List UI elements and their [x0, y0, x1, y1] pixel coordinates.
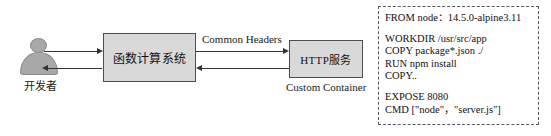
dockerfile-panel: FROM node：14.5.0-alpine3.11 WORKDIR /usr…	[378, 6, 539, 125]
person-icon-body	[20, 52, 58, 75]
dockerfile-line: CMD ["node"，"server.js"]	[385, 104, 538, 117]
actor-developer-label: 开发者	[0, 80, 80, 93]
diagram-canvas: 开发者 函数计算系统 Common Headers HTTP服务 Custom …	[0, 0, 551, 136]
node-http-service-caption: Custom Container	[286, 81, 366, 93]
actor-developer	[18, 38, 62, 82]
edge-dev-to-fc-line	[44, 51, 98, 52]
dockerfile-line: WORKDIR /usr/src/app	[385, 33, 538, 46]
node-function-compute: 函数计算系统	[103, 33, 196, 82]
node-http-service-label: HTTP服务	[300, 51, 351, 67]
dockerfile-line-blank	[385, 83, 538, 91]
dockerfile-line-blank	[385, 25, 538, 33]
dockerfile-line: RUN npm install	[385, 58, 538, 71]
node-http-service: HTTP服务	[289, 40, 363, 78]
edge-fc-to-dev-line	[48, 68, 102, 69]
edge-fc-to-http-line	[196, 51, 284, 52]
node-function-compute-label: 函数计算系统	[113, 49, 187, 67]
dockerfile-line: FROM node：14.5.0-alpine3.11	[385, 12, 538, 25]
dockerfile-line: EXPOSE 8080	[385, 91, 538, 104]
edge-http-to-fc-arrowhead	[196, 65, 202, 71]
dockerfile-line: COPY..	[385, 70, 538, 83]
dockerfile-line: COPY package*.json ./	[385, 45, 538, 58]
edge-fc-to-dev-arrowhead	[42, 65, 48, 71]
edge-http-to-fc-line	[202, 68, 289, 69]
edge-label-common-headers: Common Headers	[202, 33, 282, 45]
